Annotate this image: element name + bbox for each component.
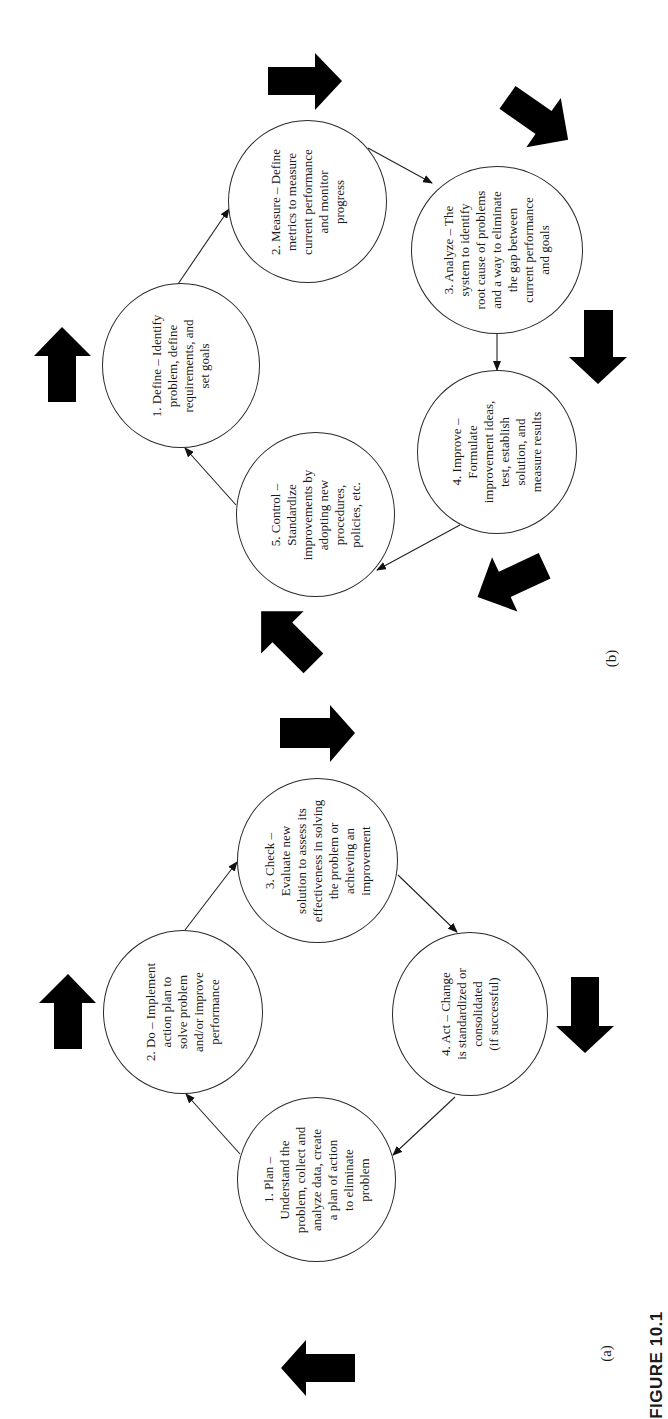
node-analyze: 3. Analyze – The system to identify root… xyxy=(411,166,583,334)
panel-label-b: (b) xyxy=(603,650,620,668)
node-improve: 4. Improve – Formulate improvement ideas… xyxy=(417,370,577,534)
edge-check-act xyxy=(398,875,457,932)
down-right-icon xyxy=(490,73,585,165)
node-check: 3. Check – Evaluate new solution to asse… xyxy=(237,778,398,943)
node-measure-text: 2. Measure – Define metrics to measure c… xyxy=(268,127,348,277)
node-define: 1. Define – Identify problem, define req… xyxy=(102,283,260,448)
node-analyze-text: 3. Analyze – The system to identify root… xyxy=(441,170,553,330)
right-icon xyxy=(268,53,342,110)
panel-label-a: (a) xyxy=(598,1345,615,1362)
left-icon xyxy=(281,1340,355,1396)
edge-plan-do xyxy=(186,1094,240,1154)
node-plan-text: 1. Plan – Understand the problem, collec… xyxy=(261,1105,373,1255)
figure-caption: FIGURE 10.1 xyxy=(647,1311,667,1419)
node-define-text: 1. Define – Identify problem, define req… xyxy=(149,291,213,441)
right-icon xyxy=(280,705,355,762)
up-icon xyxy=(34,327,91,402)
node-control-text: 5. Control – Standardize improvements by… xyxy=(268,440,364,590)
node-measure: 2. Measure – Define metrics to measure c… xyxy=(228,120,387,283)
node-plan: 1. Plan – Understand the problem, collec… xyxy=(237,1097,396,1262)
edge-control-define xyxy=(185,448,236,505)
node-control: 5. Control – Standardize improvements by… xyxy=(236,432,395,597)
up-icon xyxy=(39,974,96,1049)
node-act-text: 4. Act – Change is standardized or conso… xyxy=(438,939,502,1089)
up-left-icon xyxy=(240,590,335,685)
edge-act-plan xyxy=(393,1097,455,1155)
node-check-text: 3. Check – Evaluate new solution to asse… xyxy=(262,781,374,941)
down-icon xyxy=(569,310,627,384)
edge-define-measure xyxy=(178,209,229,284)
node-act: 4. Act – Change is standardized or conso… xyxy=(392,932,548,1096)
node-do-text: 2. Do – Implement action plan to solve p… xyxy=(143,937,223,1087)
down-icon xyxy=(556,977,614,1053)
node-do: 2. Do – Implement action plan to solve p… xyxy=(103,930,263,1094)
down-left-icon xyxy=(465,539,557,625)
node-improve-text: 4. Improve – Formulate improvement ideas… xyxy=(449,377,545,527)
edge-do-check xyxy=(185,862,237,930)
